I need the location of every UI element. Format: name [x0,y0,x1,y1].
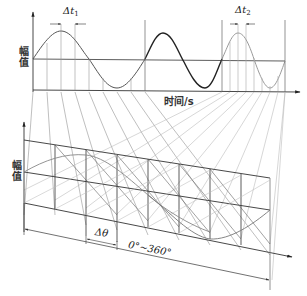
delta-theta-dimension [87,239,116,245]
top-x-axis-label: 时间/s [164,93,194,108]
bottom-panel [24,122,292,290]
full-range-dimension [25,229,269,280]
projection-lines [24,92,270,255]
delta-theta-label: Δθ [94,226,109,239]
top-time-axis [33,90,300,92]
top-center-line [33,59,285,61]
bottom-y-axis-label: 幅值 [8,160,23,182]
sampling-lines-cycle-1 [47,24,131,90]
delta-t1-label: Δt1 [63,5,79,18]
top-y-axis-label: 幅值 [15,46,30,68]
top-panel [33,12,300,92]
cross-diagonals [55,145,270,244]
delta-t2-label: Δt2 [235,4,251,17]
waveform-to-angle-diagram: Δt1 Δt2 幅值 时间/s 幅值 Δθ 0°~360° [0,0,307,296]
